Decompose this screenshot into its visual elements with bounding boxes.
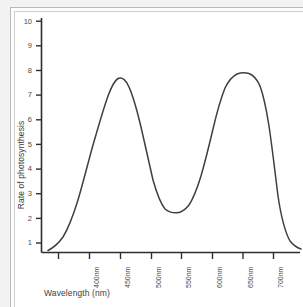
x-tick-label-550nm: 550nm: [185, 267, 192, 288]
x-tick-label-600nm: 600nm: [216, 267, 223, 288]
x-tick-label-700nm: 700nm: [277, 267, 284, 288]
y-axis-title: Rate of photosynthesis: [16, 100, 26, 230]
x-axis-ticks: [59, 253, 274, 260]
x-tick-label-400nm: 400nm: [93, 267, 100, 288]
y-axis-group: [36, 18, 42, 253]
x-axis-group: [42, 253, 301, 260]
y-tick-label-1: 1: [18, 239, 32, 247]
y-tick-label-9: 9: [18, 42, 32, 50]
photosynthesis-curve: [48, 73, 301, 251]
y-tick-label-7: 7: [18, 91, 32, 99]
y-tick-label-10: 10: [18, 18, 32, 26]
x-axis-title: Wavelength (nm): [44, 288, 110, 298]
x-tick-label-650nm: 650nm: [247, 267, 254, 288]
y-axis-ticks: [36, 21, 42, 243]
chart-figure: 10 9 8 7 6 5 4 3 2 1 400nm 450nm 500nm 5…: [0, 0, 303, 307]
photosynthesis-action-spectrum-plot: [0, 0, 303, 307]
x-tick-label-450nm: 450nm: [124, 267, 131, 288]
y-tick-label-8: 8: [18, 67, 32, 75]
x-tick-label-500nm: 500nm: [155, 267, 162, 288]
